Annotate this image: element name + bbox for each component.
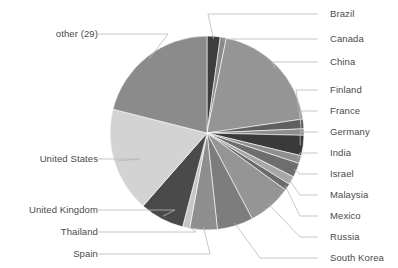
leader-line-spain [98,227,210,254]
pie-label-france: France [330,105,360,116]
leader-line-israel [294,169,318,174]
pie-label-malaysia: Malaysia [330,189,368,200]
pie-label-finland: Finland [330,84,362,95]
pie-label-russia: Russia [330,231,360,242]
pie-label-spain: Spain [73,248,98,259]
pie-label-canada: Canada [330,33,364,44]
pie-label-united-states: United States [40,153,98,164]
pie-chart: Brazil Canada China Finland France Germa… [0,0,398,268]
leader-line-russia [269,204,318,237]
pie-label-brazil: Brazil [330,8,354,19]
pie-label-china: China [330,56,355,67]
pie-label-germany: Germany [330,126,370,137]
pie-label-india: India [330,147,351,158]
leader-line-china [272,62,318,68]
pie-label-south-korea: South Korea [330,252,384,263]
leader-line-mexico [285,186,318,217]
leader-line-canada [223,39,318,40]
pie-label-israel: Israel [330,168,354,179]
pie-label-thailand: Thailand [61,226,98,237]
leader-line-malaysia [289,179,318,195]
leader-line-south-korea [235,223,319,258]
pie-label-mexico: Mexico [330,210,361,221]
pie-slice-group [110,36,304,230]
leader-line-brazil [208,14,318,39]
pie-label-other: other (29) [56,28,98,39]
pie-label-united-kingdom: United Kingdom [29,204,98,215]
